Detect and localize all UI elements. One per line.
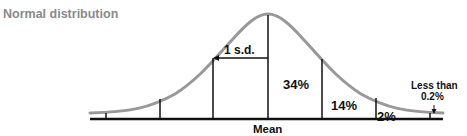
mean-label: Mean [253, 123, 282, 135]
bell-curve [90, 14, 443, 113]
sd-label: 1 s.d. [224, 43, 255, 57]
pct-2-label: 2% [377, 109, 396, 124]
pct-34-label: 34% [283, 77, 309, 92]
pct-14-label: 14% [331, 98, 357, 113]
tail-label-line2: 0.2% [421, 91, 444, 102]
tail-label-line1: Less than [411, 80, 458, 91]
normal-distribution-diagram: 1 s.d. 34% 14% 2% Less than 0.2% Mean [0, 0, 467, 136]
